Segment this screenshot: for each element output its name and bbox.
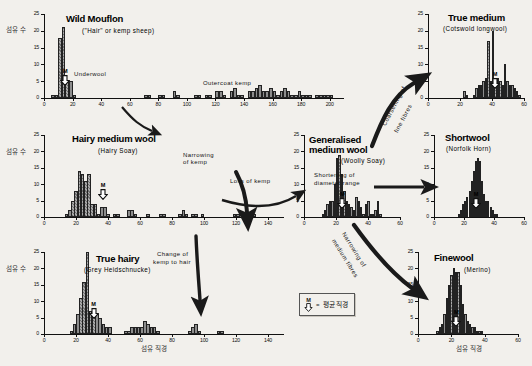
arrow-narrowing-of-medium-fibres [354, 225, 412, 288]
annotation-change-kemp-hair-line2: kemp to hair [153, 259, 191, 266]
down-arrow-icon [304, 303, 313, 312]
annotation-shortening-line1: Shortening of [314, 172, 355, 179]
legend-equals: = [316, 302, 320, 308]
arrow-mouflon-to-hairy-medium [122, 107, 152, 131]
annotation-change-kemp-hair-line1: Change of [157, 251, 188, 258]
legend-mean-marker-icon: M [304, 297, 313, 312]
arrow-change-of-kemp-to-hair [196, 236, 200, 300]
annotation-shortening-line2: diameter range [314, 180, 360, 187]
arrow-loss-of-kemp [222, 196, 296, 206]
legend-label: 평균 직경 [323, 301, 349, 309]
annotation-narrowing-of-kemp-line2: of kemp [183, 159, 207, 166]
figure-canvas: 0510152025020406080100120140160180200M 섬… [0, 0, 532, 366]
legend-mean-diameter: M = 평균 직경 [299, 293, 355, 316]
annotation-loss-of-kemp: Loss of kemp [230, 178, 270, 185]
